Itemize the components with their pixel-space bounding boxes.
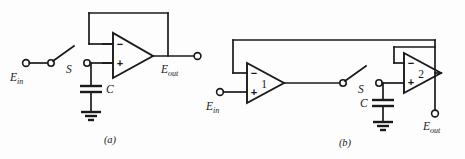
switch-right-contact-a [84,60,90,66]
inverting-sign-amp2-b: − [408,57,414,69]
circuit-a: − + Ein Eout S C (a) [9,13,201,146]
circuit-b: − + 1 − [205,40,441,149]
capacitor-label-b: C [360,97,368,109]
inverting-sign-amp1-b: − [251,67,257,79]
amp1-number-b: 1 [261,78,267,90]
capacitor-label-a: C [106,83,114,95]
inverting-sign-a: − [117,38,123,50]
amp2-number-b: 2 [418,68,424,80]
output-terminal-a [194,53,201,60]
input-label-b: Ein [205,100,219,115]
switch-right-contact-b [376,80,382,86]
input-terminal-a [23,60,30,67]
output-label-b: Eout [422,120,441,135]
noninverting-sign-amp1-b: + [251,86,257,98]
output-label-a: Eout [160,63,179,78]
circuit-diagram-svg: − + Ein Eout S C (a) [0,0,465,159]
switch-blade-a[interactable] [53,46,74,61]
noninverting-sign-a: + [117,57,123,69]
output-terminal-b [432,110,439,117]
input-label-a: Ein [9,71,23,86]
circuit-figure: − + Ein Eout S C (a) [0,0,465,159]
caption-b: (b) [339,137,352,149]
switch-blade-b[interactable] [345,66,366,81]
input-terminal-b [217,89,224,96]
switch-label-a: S [66,63,72,75]
switch-label-b: S [358,83,364,95]
caption-a: (a) [104,134,117,146]
noninverting-sign-amp2-b: + [408,76,414,88]
